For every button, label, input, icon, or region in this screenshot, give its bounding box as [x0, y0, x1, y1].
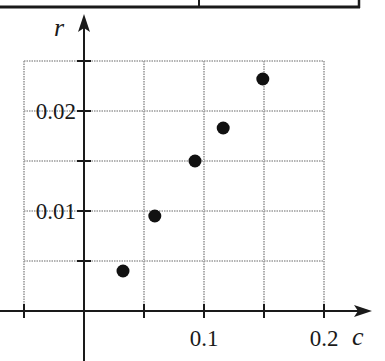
- x-axis-label: c: [352, 322, 364, 351]
- data-point: [256, 73, 269, 86]
- top-table-fragment: [0, 0, 360, 8]
- x-tick-label: 0.2: [310, 326, 339, 351]
- data-point: [217, 122, 230, 135]
- data-point: [148, 210, 161, 223]
- tick-labels: 0.10.20.010.02: [36, 99, 339, 351]
- axes: [0, 14, 372, 361]
- x-tick-label: 0.1: [190, 326, 219, 351]
- data-points: [117, 73, 270, 278]
- data-point: [117, 265, 130, 278]
- y-axis-label: r: [54, 13, 65, 42]
- y-tick-label: 0.02: [36, 99, 76, 124]
- data-point: [189, 155, 202, 168]
- scatter-chart: 0.10.20.010.02 c r: [0, 0, 385, 361]
- y-tick-label: 0.01: [36, 199, 76, 224]
